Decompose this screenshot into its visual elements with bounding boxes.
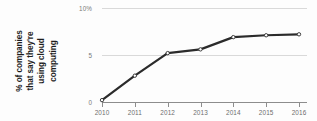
series-markers [100,33,300,102]
x-tick-mark-2014 [233,103,234,107]
x-tick-mark-2011 [135,103,136,107]
y-axis-title-container: % of companies that say they're using cl… [0,0,72,121]
y-axis-title-line-2: that say they're [25,1,36,121]
gridline-0 [102,102,307,103]
x-tick-label-2011: 2011 [128,109,142,116]
data-point-2012 [166,51,169,54]
x-tick-mark-2010 [102,103,103,107]
data-point-2016 [297,33,300,36]
y-axis-title: % of companies that say they're using cl… [14,1,59,121]
x-tick-mark-2013 [201,103,202,107]
x-tick-mark-2012 [168,103,169,107]
data-point-2013 [199,48,202,51]
plot-area: 0510% 2010201120122013201420152016 [95,8,307,102]
data-point-2011 [133,74,136,77]
y-axis-title-line-4: computing [47,1,58,121]
x-tick-label-2013: 2013 [193,109,208,116]
x-tick-label-2010: 2010 [95,109,110,116]
data-point-2015 [264,34,267,37]
x-tick-mark-2015 [266,103,267,107]
x-tick-label-2014: 2014 [226,109,241,116]
x-tick-label-2015: 2015 [259,109,274,116]
data-series-layer [95,8,307,102]
x-tick-label-2012: 2012 [160,109,175,116]
y-tick-label-5: 5 [88,52,92,59]
cloud-computing-line-chart: % of companies that say they're using cl… [0,0,317,121]
y-axis-title-line-1: % of companies [14,1,25,121]
data-point-2010 [100,98,103,101]
x-tick-mark-2016 [299,103,300,107]
y-tick-label-0: 0 [88,99,92,106]
y-tick-label-10: 10% [79,5,92,12]
series-line [102,34,299,100]
x-tick-label-2016: 2016 [292,109,307,116]
data-point-2014 [232,35,235,38]
y-axis-title-line-3: using cloud [36,1,47,121]
